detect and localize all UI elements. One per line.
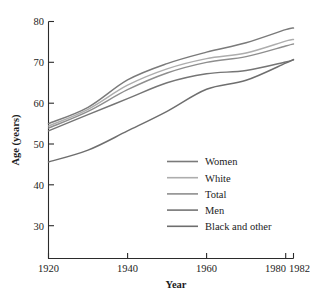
- life-expectancy-line-chart: 80 70 60 50 40 30 1920 1940 1960 1980 19…: [0, 0, 312, 296]
- x-axis-tick-labels: 1920 1940 1960 1980 1982: [38, 263, 310, 274]
- chart-page: 80 70 60 50 40 30 1920 1940 1960 1980 19…: [0, 0, 312, 296]
- legend-label-women: Women: [205, 156, 238, 167]
- y-tick-label: 40: [34, 180, 45, 191]
- y-axis-tick-labels: 80 70 60 50 40 30: [34, 16, 45, 231]
- x-tick-label: 1920: [38, 263, 59, 274]
- legend-label-total: Total: [205, 189, 227, 200]
- series-line-men: [49, 60, 294, 131]
- y-tick-label: 50: [34, 139, 45, 150]
- y-tick-label: 80: [34, 16, 45, 27]
- series-group: [49, 28, 294, 162]
- y-tick-label: 60: [34, 98, 45, 109]
- x-axis-title: Year: [166, 279, 187, 290]
- x-tick-label: 1982: [289, 263, 310, 274]
- legend-label-black-and-other: Black and other: [205, 221, 272, 232]
- x-tick-label: 1960: [196, 263, 217, 274]
- x-tick-label: 1940: [117, 263, 138, 274]
- x-tick-label: 1980: [265, 263, 286, 274]
- y-axis-title: Age (years): [10, 114, 22, 166]
- legend-label-men: Men: [205, 205, 225, 216]
- chart-legend: WomenWhiteTotalMenBlack and other: [167, 156, 272, 232]
- x-axis-ticks: [49, 253, 294, 259]
- y-tick-label: 70: [34, 57, 45, 68]
- legend-label-white: White: [205, 173, 231, 184]
- y-tick-label: 30: [34, 221, 45, 232]
